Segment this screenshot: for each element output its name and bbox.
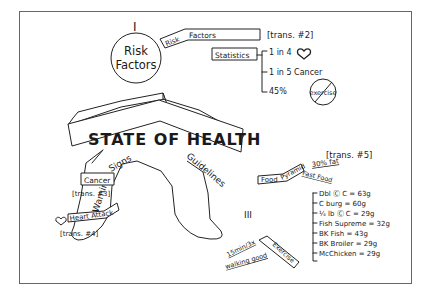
- stat-1-in-5-cancer: 1 in 5 Cancer: [269, 68, 323, 77]
- heart-icon: [298, 49, 311, 59]
- cancer-label: Cancer: [84, 176, 111, 185]
- fast-food-item: C burg = 60g: [319, 200, 366, 208]
- statistics-label: Statistics: [215, 51, 249, 60]
- fast-food-item: Dbl Ⓒ C = 63g: [319, 190, 371, 198]
- no-exercise-icon: exercise: [310, 79, 337, 105]
- fast-food-item: McChicken = 29g: [319, 250, 380, 258]
- food-label: Food: [261, 176, 278, 184]
- cancer-trans: [trans. #3]: [72, 190, 110, 198]
- fast-food-label: Fast Food: [302, 169, 334, 184]
- fast-food-list: Dbl Ⓒ C = 63g C burg = 60g ¼ lb Ⓒ C = 29…: [319, 190, 390, 258]
- fast-food-item: Fish Supreme = 32g: [319, 220, 390, 228]
- fast-food-bracket: [313, 193, 317, 261]
- section-numeral-iii: III: [244, 210, 252, 220]
- risk-factors-tag-factors: Factors: [189, 31, 216, 40]
- head-label-factors: Factors: [115, 58, 156, 72]
- heart-icon: [56, 217, 66, 225]
- fat-label: 30% fat: [311, 157, 339, 169]
- title-text: STATE OF HEALTH: [88, 130, 261, 149]
- statistics-bracket: [257, 51, 267, 92]
- state-of-health-diagram: STATE OF HEALTH I Risk Factors Risk Fact…: [0, 0, 436, 302]
- fast-food-item: ¼ lb Ⓒ C = 29g: [319, 210, 374, 218]
- fast-food-item: BK Fish = 43g: [319, 230, 368, 238]
- head-label-risk: Risk: [124, 44, 148, 58]
- fast-food-item: BK Broiler = 29g: [319, 240, 377, 248]
- risk-factors-trans: [trans. #2]: [267, 30, 313, 40]
- heart-attack-trans: [trans. #4]: [60, 230, 98, 238]
- stat-45-percent: 45%: [269, 87, 287, 96]
- stat-1-in-4: 1 in 4: [269, 48, 292, 57]
- section-numeral-i: I: [133, 20, 137, 34]
